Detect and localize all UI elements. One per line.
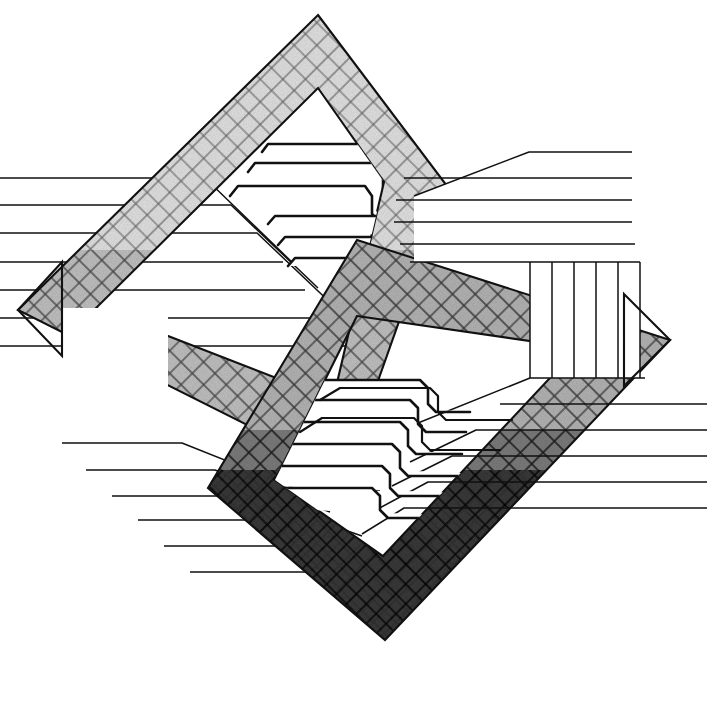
artboard (0, 0, 707, 728)
geometric-artwork-svg (0, 0, 707, 728)
